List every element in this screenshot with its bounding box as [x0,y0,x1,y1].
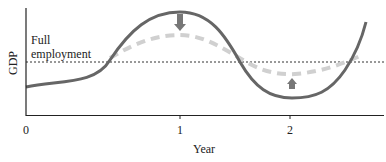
x-axis-label: Year [193,142,215,156]
y-axis-label: GDP [6,51,20,75]
full-employment-label-line1: Full [31,33,51,47]
full-employment-label-line2: employment [31,47,92,61]
up-arrow-icon [287,78,297,89]
x-tick-label-1: 1 [177,123,183,137]
down-arrow-icon [174,14,186,31]
x-tick-label-0: 0 [23,123,29,137]
chart-canvas: 0 1 2 Year GDP Full employment [0,0,386,162]
x-tick-label-2: 2 [287,123,293,137]
gdp-business-cycle-chart: 0 1 2 Year GDP Full employment [0,0,386,162]
